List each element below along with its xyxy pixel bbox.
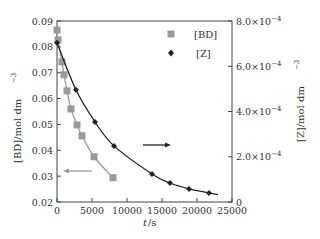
left-tick-label: 0.09 <box>32 16 53 27</box>
right-axis-ticks: 02.0×10−44.0×10−46.0×10−48.0×10−4 <box>228 15 282 208</box>
bottom-tick-label: 5000 <box>80 205 104 216</box>
bottom-tick-label: 10000 <box>112 205 142 216</box>
series-bd <box>54 27 117 182</box>
left-tick-label: 0.06 <box>32 93 53 104</box>
right-tick-label: 2.0×10−4 <box>236 150 282 162</box>
right-tick-label: 4.0×10−4 <box>236 105 282 117</box>
z-data-point <box>167 180 173 186</box>
left-tick-label: 0.03 <box>32 171 53 182</box>
left-tick-label: 0.07 <box>32 67 53 78</box>
left-tick-label: 0.05 <box>32 119 53 130</box>
right-arrow-icon <box>143 143 171 148</box>
right-y-axis-label-text: [Z]/mol dm <box>295 86 306 142</box>
z-data-point <box>206 190 212 196</box>
bottom-tick-label: 0 <box>54 205 60 216</box>
series-z <box>54 40 218 196</box>
left-tick-label: 0.04 <box>32 145 53 156</box>
bd-data-point <box>64 87 71 94</box>
z-data-point <box>73 87 79 93</box>
left-tick-label: 0.02 <box>32 197 53 208</box>
bottom-axis-ticks: 0500010000150002000025000 <box>54 198 247 216</box>
bd-data-point <box>91 153 98 160</box>
left-y-axis-label: [BD]/mol dm −3 <box>10 73 23 163</box>
z-data-point <box>186 186 192 192</box>
bottom-tick-label: 25000 <box>217 205 247 216</box>
z-fit-line <box>57 43 218 195</box>
bd-data-point <box>110 174 117 181</box>
legend: [BD] [Z] <box>168 29 218 59</box>
bd-fit-line <box>57 30 113 178</box>
right-y-axis-label: [Z]/mol dm −3 <box>293 60 306 142</box>
x-axis-label-unit: /s <box>148 217 157 228</box>
bd-data-point <box>61 71 68 78</box>
right-tick-label: 8.0×10−4 <box>236 15 282 27</box>
right-tick-label: 6.0×10−4 <box>236 60 282 72</box>
left-y-axis-label-text: [BD]/mol dm <box>12 98 23 163</box>
left-tick-label: 0.08 <box>32 41 53 52</box>
left-y-axis-label-sup: −3 <box>10 73 18 83</box>
bd-data-point <box>78 132 85 139</box>
x-axis-label: t /s <box>143 217 157 228</box>
right-tick-label: 0 <box>236 197 242 208</box>
bottom-tick-label: 20000 <box>182 205 212 216</box>
bd-data-point <box>54 27 61 34</box>
right-y-axis-label-sup: −3 <box>293 60 301 70</box>
bottom-tick-label: 15000 <box>147 205 177 216</box>
bd-data-point <box>74 121 81 128</box>
legend-bd-marker-icon <box>168 31 175 38</box>
legend-bd-label: [BD] <box>194 29 217 40</box>
bd-data-point <box>68 105 75 112</box>
chart: 0.020.030.040.050.060.070.080.09 0500010… <box>0 0 320 239</box>
left-arrow-icon <box>63 169 92 174</box>
legend-z-marker-icon <box>168 50 174 57</box>
legend-z-label: [Z] <box>196 48 211 59</box>
